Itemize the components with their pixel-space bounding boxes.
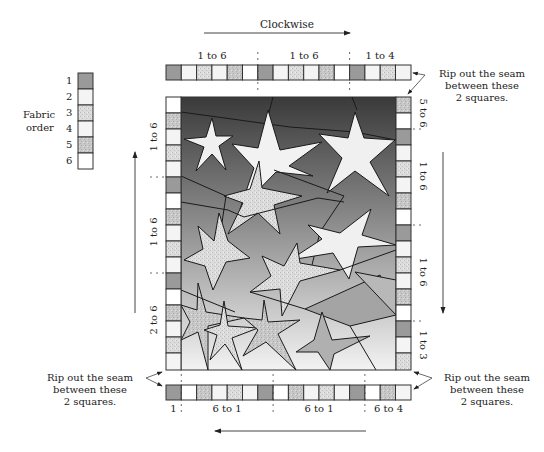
fabric-num-1: 1 [66,75,72,87]
right-segment-2: 1 to 6 [417,146,429,206]
left-segment-2: 1 to 6 [148,202,160,262]
annotation-line: between these [34,384,146,396]
fabric-label-line1: Fabric [23,109,55,121]
fabric-legend-swatches [78,73,93,169]
right-border-strip [396,97,411,370]
direction-title: Clockwise [232,18,342,30]
fabric-label-line2: order [26,122,54,134]
bottom-segment-3: 6 to 1 [281,403,357,415]
left-border-strip [166,97,181,370]
annotation-bottom-left: Rip out the seam between these 2 squares… [34,372,146,408]
top-segment-1: 1 to 6 [181,50,243,62]
fabric-num-3: 3 [66,107,72,119]
annotation-line: between these [420,80,544,92]
annotation-line: Rip out the seam [430,372,544,384]
fabric-num-6: 6 [66,155,72,167]
fabric-num-2: 2 [66,91,72,103]
bottom-segment-1: 1 [166,403,181,415]
bottom-border-strip [166,385,411,400]
annotation-top-right: Rip out the seam between these 2 squares… [420,68,544,104]
top-segment-2: 1 to 6 [273,50,335,62]
annotation-line: Rip out the seam [34,372,146,384]
fabric-num-4: 4 [66,123,72,135]
fabric-num-5: 5 [66,139,72,151]
bottom-segment-2: 6 to 1 [189,403,265,415]
annotation-line: 2 squares. [430,396,544,408]
top-border-strip [166,65,411,80]
right-segment-4: 1 to 3 [417,315,429,375]
annotation-line: Rip out the seam [420,68,544,80]
annotation-bottom-right: Rip out the seam between these 2 squares… [430,372,544,408]
annotation-line: 2 squares. [34,396,146,408]
left-segment-3: 2 to 6 [148,290,160,350]
bottom-segment-4: 6 to 4 [366,403,411,415]
left-segment-1: 1 to 6 [148,107,160,167]
top-segment-3: 1 to 4 [350,50,410,62]
right-segment-3: 1 to 6 [417,242,429,302]
annotation-line: 2 squares. [420,92,544,104]
annotation-line: between these [430,384,544,396]
